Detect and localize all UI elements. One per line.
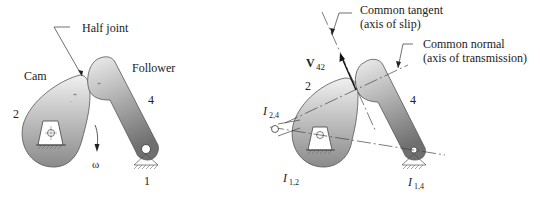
svg-text:+: +	[73, 91, 77, 99]
normal-label-1: Common normal	[423, 37, 505, 51]
link-2-label: 2	[13, 107, 19, 121]
ic-12-label: I	[282, 171, 288, 185]
ground-label: 1	[144, 174, 150, 188]
normal-label-2: (axis of transmission)	[423, 51, 527, 65]
v42-label: V	[306, 56, 315, 70]
follower-body-right	[355, 59, 425, 160]
left-figure: + · + Half joint Cam Follower 2 4 ω 1	[13, 21, 175, 188]
cam-label: Cam	[24, 69, 47, 83]
normal-leader	[398, 44, 413, 68]
half-joint-leader	[54, 27, 82, 76]
ic-24-sub: 2,4	[269, 111, 279, 120]
tangent-label-1: Common tangent	[360, 3, 444, 17]
link-2-label-right: 2	[305, 79, 311, 93]
omega-label: ω	[92, 158, 99, 170]
tangent-leader	[332, 13, 352, 35]
svg-text:·: ·	[70, 99, 72, 105]
follower-label: Follower	[132, 61, 175, 75]
half-joint-label: Half joint	[82, 21, 129, 35]
v42-sub: 42	[316, 62, 325, 72]
cam-body-right	[292, 78, 358, 167]
right-figure: Common tangent (axis of slip) Common nor…	[262, 3, 527, 191]
follower-pivot	[142, 145, 151, 154]
ic-14-label: I	[407, 175, 413, 189]
omega-arrow	[95, 125, 98, 147]
cam-follower-diagram: + · + Half joint Cam Follower 2 4 ω 1	[0, 0, 540, 198]
svg-text:+: +	[97, 80, 101, 88]
ic-14-sub: 1,4	[414, 182, 424, 191]
tangent-label-2: (axis of slip)	[360, 17, 421, 31]
ic-12-sub: 1,2	[289, 178, 299, 187]
link-4-label: 4	[148, 93, 154, 107]
ic-24-label: I	[262, 104, 268, 118]
link-4-label-right: 4	[410, 93, 416, 107]
ic-24-point	[272, 126, 279, 133]
